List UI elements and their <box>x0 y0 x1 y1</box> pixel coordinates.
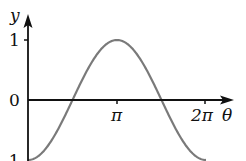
x-axis-label: θ <box>222 105 232 125</box>
y-axis-label: y <box>9 5 20 25</box>
y-tick-label-0: 0 <box>9 90 20 110</box>
chart: y 1 0 -1 π 2π θ <box>0 0 246 161</box>
x-tick-label-pi: π <box>110 105 123 125</box>
y-tick-label-neg1: -1 <box>3 151 20 161</box>
y-tick-label-1: 1 <box>9 30 20 50</box>
x-tick-label-2pi: 2π <box>190 105 214 125</box>
